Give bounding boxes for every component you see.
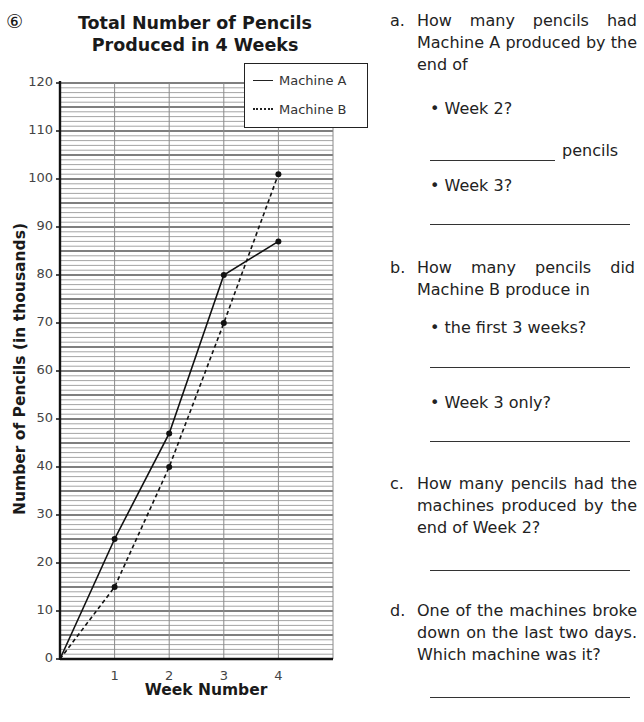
legend-label: Machine A (279, 73, 346, 88)
answer-blank[interactable] (430, 160, 555, 161)
sub-question: • Week 3? (430, 175, 512, 197)
data-point (166, 430, 172, 436)
question-label: c. (390, 473, 412, 495)
data-point (112, 584, 118, 590)
data-point (221, 320, 227, 326)
answer-blank[interactable] (430, 570, 630, 571)
y-tick-label: 0 (13, 650, 53, 665)
y-tick-label: 20 (13, 554, 53, 569)
y-axis-label: Number of Pencils (in thousands) (11, 199, 29, 539)
legend-item-machine-a: Machine A (245, 67, 367, 93)
y-tick-label: 10 (13, 602, 53, 617)
data-point (275, 171, 281, 177)
data-point (275, 238, 281, 244)
question-label: d. (390, 600, 412, 622)
answer-blank[interactable] (430, 367, 630, 368)
sub-question: • Week 2? (430, 98, 512, 120)
x-axis-label: Week Number (96, 681, 316, 699)
answer-blank[interactable] (430, 441, 630, 442)
data-point (221, 272, 227, 278)
question-text: One of the machines broke down on the la… (417, 600, 637, 666)
data-point (166, 464, 172, 470)
question-text: How many pencils had Machine A produced … (417, 10, 637, 76)
legend-item-machine-b: Machine B (245, 96, 367, 122)
question-text: How many pencils did Machine B produce i… (417, 257, 635, 301)
question-label: a. (390, 10, 412, 32)
sub-question: • the first 3 weeks? (430, 317, 586, 339)
y-tick-label: 120 (13, 74, 53, 89)
solid-line-icon (253, 80, 273, 81)
question-text: How many pencils had the machines produc… (417, 473, 637, 539)
y-tick-label: 110 (13, 122, 53, 137)
answer-blank[interactable] (430, 697, 630, 698)
chart-legend: Machine A Machine B (244, 63, 368, 128)
answer-unit: pencils (562, 140, 618, 162)
data-point (112, 536, 118, 542)
y-tick-label: 100 (13, 170, 53, 185)
sub-question: • Week 3 only? (430, 392, 551, 414)
dashed-line-icon (253, 108, 273, 110)
answer-blank[interactable] (430, 224, 630, 225)
question-label: b. (390, 257, 412, 279)
legend-label: Machine B (279, 102, 346, 117)
